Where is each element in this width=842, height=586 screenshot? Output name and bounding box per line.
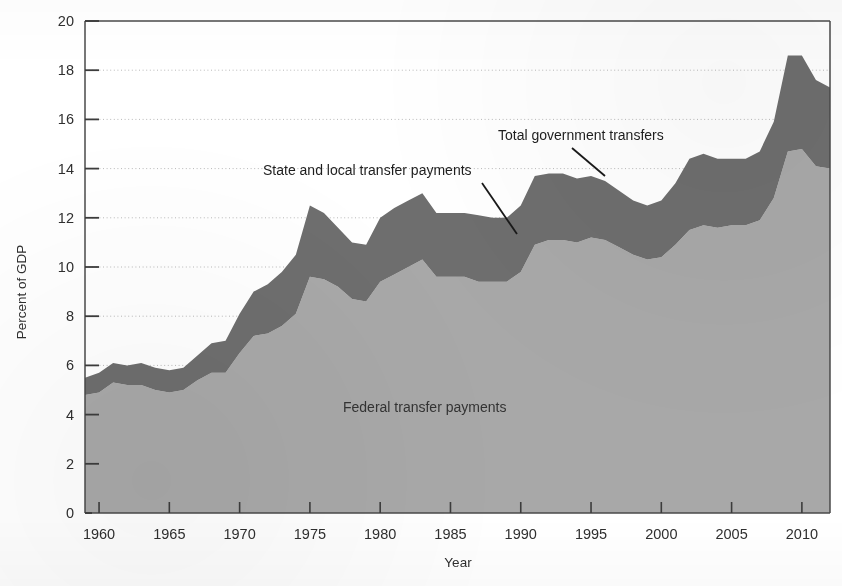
annotation-state-and-local-transfer-payments: State and local transfer payments [263,162,472,178]
chart-figure: 02468101214161820 1960196519701975198019… [0,0,842,586]
y-tick-label-2: 2 [66,456,74,472]
y-tick-label-12: 12 [58,210,74,226]
y-tick-label-10: 10 [58,259,74,275]
x-tick-label-2005: 2005 [715,526,747,542]
y-axis-title: Percent of GDP [14,245,29,340]
annotation-total-government-transfers: Total government transfers [498,127,664,143]
x-tick-label-1985: 1985 [434,526,466,542]
y-tick-label-20: 20 [58,13,74,29]
x-tick-label-1960: 1960 [83,526,115,542]
y-tick-label-0: 0 [66,505,74,521]
x-tick-label-1970: 1970 [223,526,255,542]
y-tick-label-4: 4 [66,407,74,423]
x-tick-label-1990: 1990 [505,526,537,542]
y-tick-label-18: 18 [58,62,74,78]
annotation-federal-transfer-payments: Federal transfer payments [343,399,506,415]
x-tick-label-2000: 2000 [645,526,677,542]
y-tick-label-8: 8 [66,308,74,324]
y-tick-label-16: 16 [58,111,74,127]
x-tick-label-1995: 1995 [575,526,607,542]
x-tick-label-1980: 1980 [364,526,396,542]
x-axis-title: Year [444,555,472,570]
x-tick-label-2010: 2010 [786,526,818,542]
x-tick-label-1975: 1975 [294,526,326,542]
stacked-area-chart: 02468101214161820 1960196519701975198019… [0,0,842,586]
y-tick-label-14: 14 [58,161,74,177]
x-tick-label-1965: 1965 [153,526,185,542]
y-tick-label-6: 6 [66,357,74,373]
